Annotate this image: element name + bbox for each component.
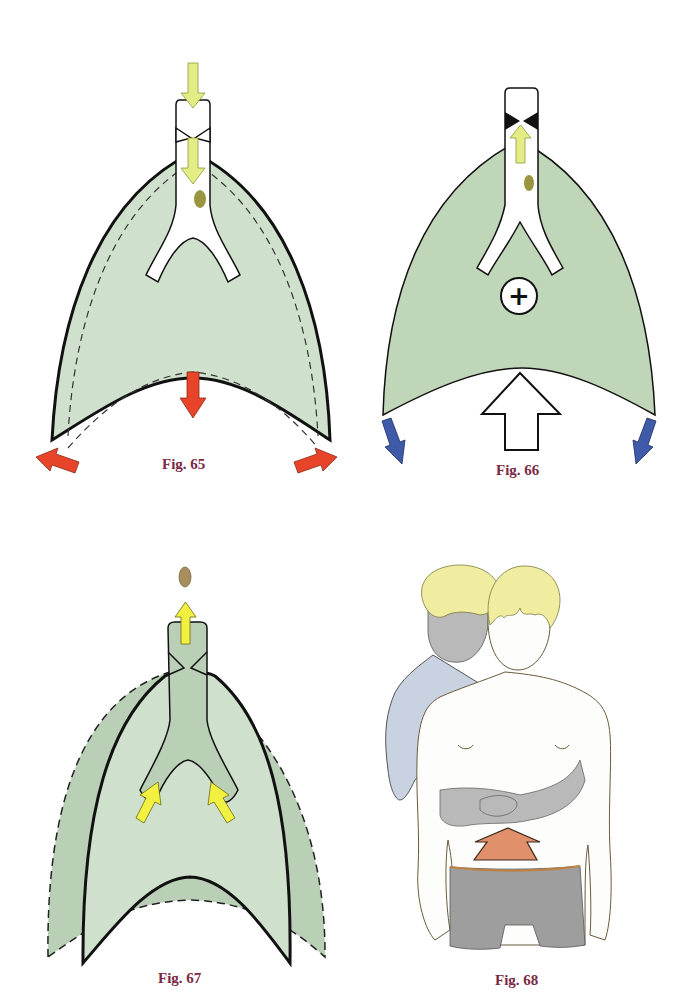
figure-68-caption: Fig. 68 — [495, 972, 538, 989]
figure-68-abdominal-thrust-illustration — [0, 0, 694, 998]
